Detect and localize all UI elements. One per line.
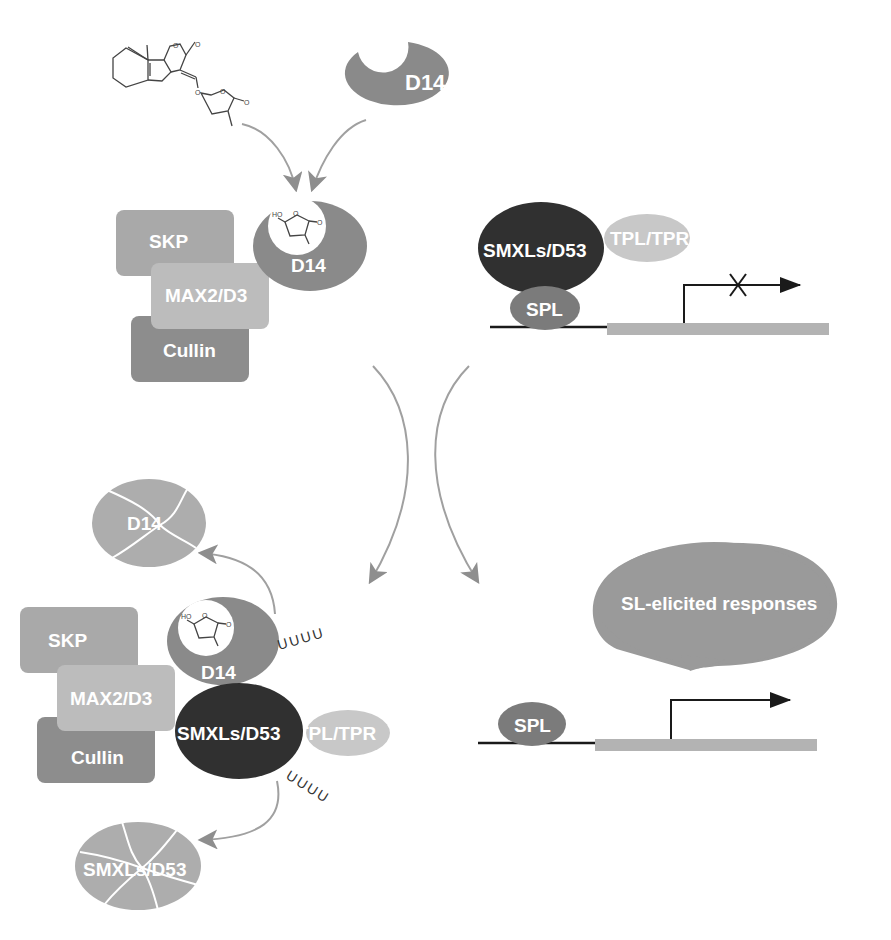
strigolactone-molecule: O O O O O (113, 41, 250, 126)
sl-signaling-diagram: O O O O O D14 SKP Cullin MAX2/D3 HO O O … (0, 0, 891, 940)
oxygen-label: O (244, 99, 250, 106)
svg-text:O: O (202, 612, 208, 619)
svg-text:D14: D14 (127, 513, 162, 534)
spl-label: SPL (526, 299, 563, 320)
d14-bound-label: D14 (291, 255, 326, 276)
max2-label: MAX2/D3 (165, 285, 247, 306)
max2-label-bottom: MAX2/D3 (70, 688, 152, 709)
tpl-tpr-label: TPL/TPR (610, 228, 689, 249)
ligand-pocket (268, 197, 326, 255)
svg-text:O: O (293, 210, 299, 217)
skp-label: SKP (149, 231, 188, 252)
transition-arrow-left (370, 366, 408, 582)
transcription-arrow-active (671, 700, 790, 739)
gene-body-bottom (595, 739, 817, 751)
svg-text:O: O (226, 621, 232, 628)
degraded-smxl-d53: SMXLs/D53 (75, 822, 201, 910)
oxygen-label: O (220, 88, 226, 95)
gene-body (607, 323, 829, 335)
ligand-pocket-bottom (178, 600, 234, 656)
skp-label-bottom: SKP (48, 630, 87, 651)
cullin-label: Cullin (163, 340, 216, 361)
smxl-d53-label-bottom: SMXLs/D53 (177, 723, 280, 744)
degraded-d14: D14 (92, 479, 206, 567)
receptor-binding-arrow (312, 120, 366, 190)
ubiquitin-chain-d14: UUUU (275, 624, 326, 653)
ligand-binding-arrow (242, 124, 296, 190)
d14-free-label: D14 (405, 70, 446, 95)
svg-text:HO: HO (181, 613, 192, 620)
ubiquitin-chain-smxl: UUUU (283, 767, 333, 806)
smxl-degradation-arrow (200, 781, 278, 840)
tpl-tpr-label-bottom: TPL/TPR (297, 723, 376, 744)
transition-arrow-right (435, 366, 478, 582)
oxygen-label: O (195, 41, 201, 48)
response-label: SL-elicited responses (621, 593, 817, 614)
cullin-label-bottom: Cullin (71, 747, 124, 768)
svg-text:O: O (317, 219, 323, 226)
oxygen-label: O (173, 42, 179, 49)
smxl-d53-label: SMXLs/D53 (483, 240, 586, 261)
svg-text:HO: HO (272, 211, 283, 218)
spl-label-bottom: SPL (514, 715, 551, 736)
d14-label-bottom: D14 (201, 662, 236, 683)
